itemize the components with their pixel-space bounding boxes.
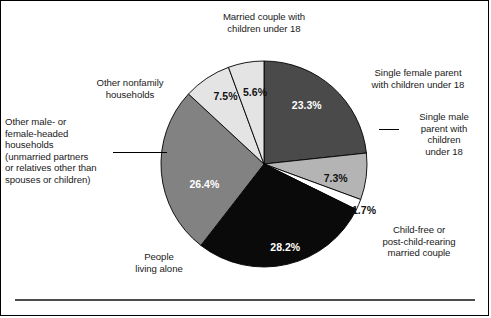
pie-slice-percent-label: 1.7% [352, 204, 377, 216]
pie-slice-percent-label: 7.3% [324, 172, 349, 184]
slice-label-other-male-female-headed: Other male- or female-headed households … [5, 116, 155, 186]
slice-label-single-female-parent: Single female parent with children under… [347, 67, 489, 90]
pie-slice-percent-label: 26.4% [190, 178, 220, 190]
slice-label-child-free: Child-free or post-child-rearing married… [353, 224, 485, 259]
slice-label-single-male-parent: Single male parent with children under 1… [399, 111, 489, 157]
pie-slice-percent-label: 23.3% [292, 99, 322, 111]
pie-slice-percent-label: 5.6% [243, 86, 268, 98]
pie-slice-percent-label: 28.2% [270, 241, 300, 253]
bottom-divider [15, 299, 475, 301]
chart-figure: 23.3%7.3%1.7%28.2%26.4%7.5%5.6% Married … [0, 0, 489, 316]
slice-label-people-living-alone: People living alone [119, 251, 199, 274]
slice-label-married-couple: Married couple with children under 18 [169, 11, 359, 34]
slice-label-other-nonfamily: Other nonfamily households [63, 77, 197, 100]
leader-line-single-male [379, 129, 399, 130]
pie-slice-percent-label: 7.5% [214, 90, 239, 102]
